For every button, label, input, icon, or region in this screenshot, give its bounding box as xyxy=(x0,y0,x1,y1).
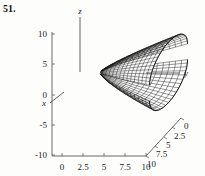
wireframe-surface xyxy=(100,34,187,111)
tick-mark xyxy=(164,137,167,139)
x-axis-letter: x xyxy=(41,98,46,108)
depth-tick-label-7p5: 7.5 xyxy=(156,149,168,159)
z-axis-letter: z xyxy=(77,6,82,16)
depth-tick-label-2p5: 2.5 xyxy=(174,131,186,141)
vertical-tick-label-5: 5 xyxy=(43,59,48,69)
depth-axis-ticks: 10 7.5 5 2.5 0 xyxy=(146,118,189,169)
vertical-tick-label-10: 10 xyxy=(38,29,48,39)
tick-mark xyxy=(181,118,184,120)
depth-tick-label-0: 0 xyxy=(184,121,189,131)
horizontal-tick-label-5: 5 xyxy=(102,162,107,172)
tick-mark xyxy=(172,127,175,129)
tick-mark xyxy=(155,146,158,148)
y-axis-letter: y xyxy=(183,68,188,78)
horizontal-tick-label-2p5: 2.5 xyxy=(77,162,89,172)
figure-container: 51. 10 5 0 -5 -10 xyxy=(0,0,205,176)
depth-tick-label-5: 5 xyxy=(166,140,171,150)
vertical-tick-label-neg10: -10 xyxy=(35,150,47,160)
vertical-tick-label-neg5: -5 xyxy=(40,120,48,130)
depth-tick-label-10: 10 xyxy=(147,159,157,169)
surface-plot: 10 5 0 -5 -10 0 2.5 5 7.5 10 10 xyxy=(0,0,205,176)
tick-mark xyxy=(146,156,149,158)
horizontal-tick-label-0: 0 xyxy=(60,162,65,172)
horizontal-tick-label-7p5: 7.5 xyxy=(119,162,131,172)
